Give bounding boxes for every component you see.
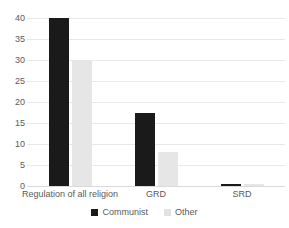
y-axis-tick-label: 5: [0, 161, 25, 170]
bar-communist-1: [135, 113, 155, 186]
y-axis-tick-labels: 0510152025303540: [0, 14, 25, 190]
bar-other-1: [158, 152, 178, 186]
bar-other-0: [72, 61, 92, 186]
legend-swatch-icon-other: [164, 209, 171, 216]
bars-layer: [27, 14, 285, 186]
x-axis-category-label: SRD: [191, 189, 289, 200]
legend-label: Communist: [102, 208, 148, 217]
y-axis-tick-label: 30: [0, 56, 25, 65]
legend-entry-other[interactable]: Other: [164, 208, 198, 217]
y-axis-tick-label: 20: [0, 98, 25, 107]
bar-communist-2: [221, 184, 241, 186]
y-axis-tick-label: 10: [0, 140, 25, 149]
legend-swatch-icon-communist: [91, 209, 98, 216]
y-axis-tick-label: 15: [0, 119, 25, 128]
legend-label: Other: [175, 208, 198, 217]
bar-chart: 0510152025303540 Regulation of all relig…: [0, 0, 289, 228]
bar-other-2: [244, 184, 264, 186]
legend-entry-communist[interactable]: Communist: [91, 208, 148, 217]
bar-communist-0: [49, 18, 69, 186]
chart-legend: CommunistOther: [0, 208, 289, 217]
x-axis-category-labels: Regulation of all religionGRDSRD: [27, 189, 285, 203]
y-axis-tick-label: 35: [0, 35, 25, 44]
y-axis-tick-label: 40: [0, 14, 25, 23]
bars-container: [27, 14, 285, 186]
gridline: [27, 186, 285, 187]
y-axis-tick-label: 25: [0, 77, 25, 86]
